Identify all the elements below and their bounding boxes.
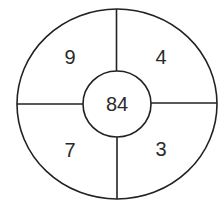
segment-top-left-value: 9 <box>64 46 75 68</box>
number-wheel-diagram: 9 4 7 3 84 <box>0 0 223 215</box>
segment-bottom-left-value: 7 <box>64 139 75 161</box>
segment-bottom-right-value: 3 <box>155 138 166 160</box>
center-value: 84 <box>106 93 128 115</box>
segment-top-right-value: 4 <box>155 46 166 68</box>
